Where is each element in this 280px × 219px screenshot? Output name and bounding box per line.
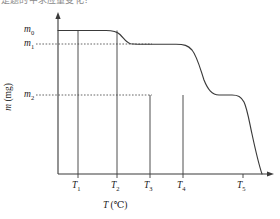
y-axis-title-unit: (mg) xyxy=(3,83,13,101)
x-tick-sub-t4: 4 xyxy=(182,185,185,192)
y-tick-sub-m2: 2 xyxy=(31,94,34,101)
y-tick-label-m2: m2 xyxy=(24,89,34,101)
y-axis-arrowhead xyxy=(55,12,60,19)
x-tick-sub-t1: 1 xyxy=(77,185,80,192)
y-tick-sub-m0: 0 xyxy=(31,29,34,36)
x-tick-sub-t2: 2 xyxy=(116,185,119,192)
y-tick-label-m0: m0 xyxy=(24,24,34,36)
y-tick-label-m1: m1 xyxy=(24,38,34,50)
y-axis-title: m (mg) xyxy=(3,67,13,127)
x-tick-label-t5: T5 xyxy=(237,180,246,192)
x-axis-title-symbol: T xyxy=(103,200,108,210)
x-tick-label-t4: T4 xyxy=(177,180,186,192)
y-axis-title-symbol: m xyxy=(3,104,13,111)
x-axis-title-unit: (℃) xyxy=(111,200,128,210)
y-tick-sub-m1: 1 xyxy=(31,43,34,50)
x-tick-sub-t5: 5 xyxy=(242,185,245,192)
x-axis-title: T (℃) xyxy=(103,199,127,210)
x-tick-label-t3: T3 xyxy=(144,180,153,192)
x-tick-sub-t3: 3 xyxy=(149,185,152,192)
figure-container: 是题的中求应量变化？ m0 m1 m2 xyxy=(0,0,280,219)
x-tick-label-t1: T1 xyxy=(72,180,81,192)
mass-loss-curve xyxy=(58,31,262,175)
x-axis-arrowhead xyxy=(267,171,274,176)
x-tick-label-t2: T2 xyxy=(111,180,120,192)
